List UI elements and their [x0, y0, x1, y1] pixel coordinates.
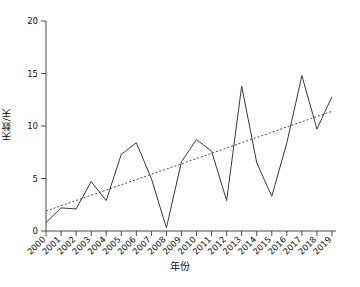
line-chart: 0 5 10 15 20 200020012002200320042005200…: [0, 0, 360, 287]
chart-canvas: 0 5 10 15 20 200020012002200320042005200…: [0, 0, 360, 287]
y-axis-title: 天数/天: [2, 108, 18, 141]
y-tick-label-10: 10: [27, 121, 38, 131]
y-axis-ticks: [41, 21, 46, 231]
y-axis-tick-labels: 0 5 10 15 20: [27, 16, 38, 236]
y-tick-label-15: 15: [27, 69, 38, 79]
x-axis-title: 年份: [0, 258, 360, 273]
y-tick-label-0: 0: [33, 226, 38, 236]
y-tick-label-20: 20: [27, 16, 38, 26]
x-axis-tick-labels: 2000200120022003200420052006200720082009…: [25, 234, 333, 256]
data-line-series: [46, 76, 332, 228]
y-tick-label-5: 5: [33, 174, 38, 184]
trend-line-series: [46, 111, 332, 211]
